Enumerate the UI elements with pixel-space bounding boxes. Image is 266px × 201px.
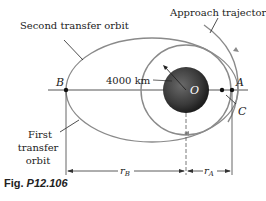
label-first-transfer-orbit-3: orbit	[26, 155, 50, 166]
label-point-a: A	[235, 76, 244, 89]
label-point-c: C	[238, 105, 247, 118]
second-orbit-leader	[64, 40, 83, 60]
label-point-o: O	[190, 84, 199, 97]
dim-rb-arrow-left	[67, 169, 73, 173]
label-point-b: B	[55, 76, 64, 89]
approach-leader	[210, 18, 218, 33]
dim-rb-arrow-right	[179, 169, 185, 173]
label-second-transfer-orbit: Second transfer orbit	[20, 20, 129, 31]
point-b-marker	[64, 88, 68, 92]
orbit-diagram: Second transfer orbit Approach trajector…	[0, 0, 266, 201]
label-first-transfer-orbit-2: transfer	[18, 142, 59, 153]
point-c-marker	[220, 88, 224, 92]
dim-ra-arrow-right	[225, 169, 231, 173]
point-a-marker	[230, 88, 234, 92]
approach-arrowhead	[233, 47, 239, 52]
figure-caption: Fig. P12.106	[4, 177, 68, 189]
label-radius: 4000 km	[106, 75, 151, 86]
first-orbit-leader	[60, 120, 79, 132]
dim-ra-arrow-left	[187, 169, 193, 173]
label-approach-trajectory: Approach trajectory	[169, 7, 266, 18]
label-first-transfer-orbit-1: First	[28, 129, 52, 140]
